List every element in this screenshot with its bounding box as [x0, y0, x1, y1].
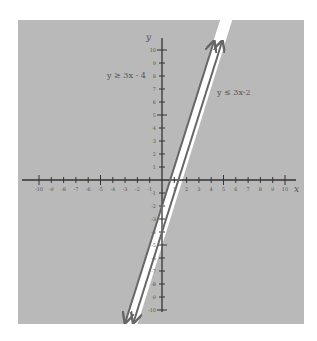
y-tick-label: -1 — [151, 190, 156, 196]
x-tick-label: -2 — [135, 186, 140, 192]
x-tick-label: -5 — [98, 186, 103, 192]
x-tick-label: 3 — [197, 186, 200, 192]
y-tick-label: -10 — [148, 307, 156, 313]
x-tick-label: -7 — [73, 186, 78, 192]
y-tick-label: 3 — [153, 138, 156, 144]
y-tick-label: 7 — [153, 86, 156, 92]
x-tick-label: 8 — [259, 186, 262, 192]
x-tick-label: -9 — [49, 186, 54, 192]
x-tick-label: -6 — [86, 186, 91, 192]
y-tick-label: -8 — [151, 281, 156, 287]
y-tick-label: 6 — [153, 99, 156, 105]
x-tick-label: 2 — [185, 186, 188, 192]
inequality-label-right: y ≤ 3x-2 — [216, 88, 251, 97]
x-tick-label: -3 — [123, 186, 128, 192]
y-tick-label: 5 — [153, 112, 156, 118]
x-tick-label: -4 — [110, 186, 115, 192]
x-axis-label: x — [294, 184, 299, 194]
y-tick-label: -9 — [151, 294, 156, 300]
inequality-graph: -10-9-8-7-6-5-4-3-2-112345678910-10-9-8-… — [0, 0, 317, 341]
x-tick-label: 10 — [282, 186, 288, 192]
x-tick-label: 4 — [210, 186, 213, 192]
y-tick-label: 2 — [153, 151, 156, 157]
x-tick-label: 5 — [222, 186, 225, 192]
y-tick-label: 1 — [153, 164, 156, 170]
y-tick-label: 10 — [150, 47, 156, 53]
y-tick-label: -5 — [151, 242, 156, 248]
x-tick-label: -8 — [61, 186, 66, 192]
x-tick-label: 7 — [247, 186, 250, 192]
x-tick-label: 9 — [271, 186, 274, 192]
x-tick-label: 6 — [234, 186, 237, 192]
y-tick-label: 4 — [153, 125, 156, 131]
x-tick-label: -10 — [35, 186, 43, 192]
y-tick-label: -3 — [151, 216, 156, 222]
y-tick-label: -2 — [151, 203, 156, 209]
y-tick-label: 9 — [153, 60, 156, 66]
y-tick-label: 8 — [153, 73, 156, 79]
shaded-region — [18, 20, 304, 324]
y-tick-label: -7 — [151, 268, 156, 274]
inequality-label-left: y ≥ 3x - 4 — [106, 71, 146, 80]
y-axis-label: y — [145, 32, 152, 42]
